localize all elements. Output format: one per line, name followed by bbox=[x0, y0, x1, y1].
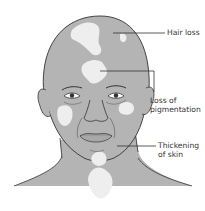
label-loss-of-pigmentation: Loss of pigmentation bbox=[150, 96, 201, 114]
medical-illustration: Hair loss Loss of pigmentation Thickenin… bbox=[0, 0, 205, 211]
cheek-depigmented-patch-right bbox=[119, 102, 134, 115]
right-pupil bbox=[114, 93, 118, 97]
left-pupil bbox=[70, 93, 74, 97]
label-pigmentation-line-1: Loss of bbox=[150, 96, 201, 105]
label-thickening-of-skin: Thickening of skin bbox=[158, 141, 199, 159]
label-hair-loss-line-1: Hair loss bbox=[167, 28, 200, 37]
label-hair-loss: Hair loss bbox=[167, 28, 200, 37]
label-thickening-line-1: Thickening bbox=[158, 141, 199, 150]
label-thickening-line-2: of skin bbox=[158, 150, 199, 159]
label-pigmentation-line-2: pigmentation bbox=[150, 105, 201, 114]
